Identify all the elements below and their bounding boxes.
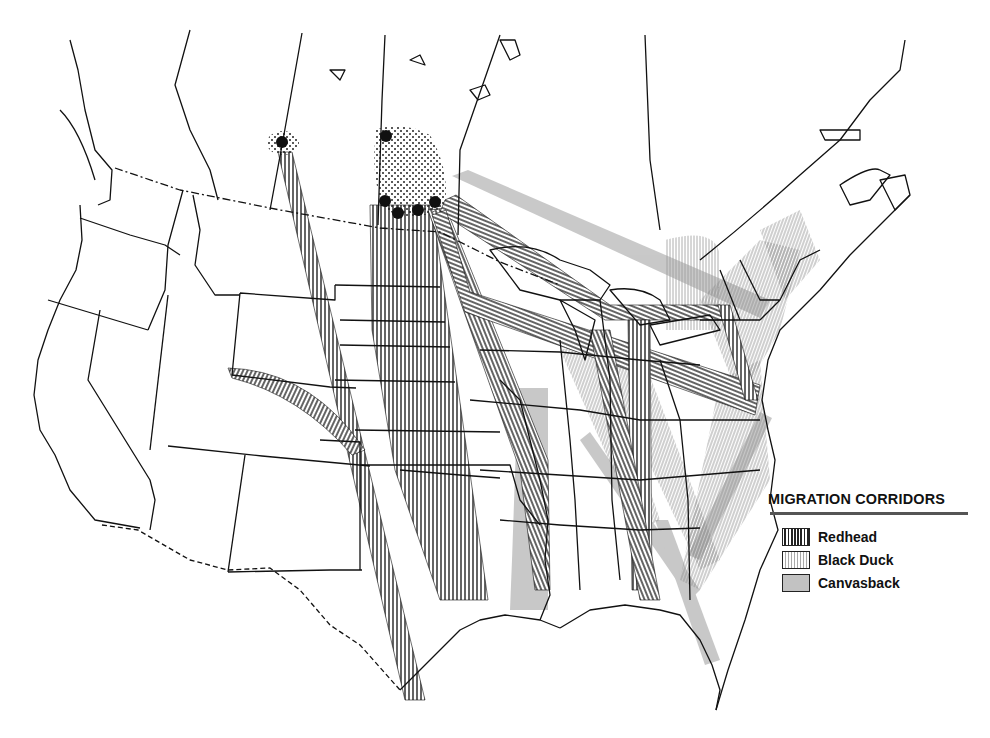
legend-label: Canvasback bbox=[818, 575, 900, 591]
redhead-swatch-icon bbox=[782, 528, 810, 546]
legend-item-canvasback: Canvasback bbox=[782, 571, 973, 594]
legend-divider bbox=[770, 512, 968, 515]
legend-title: MIGRATION CORRIDORS bbox=[768, 490, 959, 508]
breeding-site-manitoba-s1 bbox=[392, 207, 404, 219]
canvasback-swatch-icon bbox=[782, 574, 810, 592]
breeding-site-manitoba-sw bbox=[379, 195, 391, 207]
breeding-site-manitoba-se bbox=[429, 196, 441, 208]
legend-item-redhead: Redhead bbox=[782, 525, 973, 548]
breeding-site-alberta bbox=[276, 136, 288, 148]
black-duck-swatch-icon bbox=[782, 551, 810, 569]
breeding-site-manitoba-north bbox=[380, 130, 392, 142]
legend-items: Redhead Black Duck Canvasback bbox=[782, 525, 973, 594]
migration-map bbox=[0, 0, 990, 738]
boundaries bbox=[34, 30, 910, 710]
legend-label: Redhead bbox=[818, 529, 877, 545]
legend-label: Black Duck bbox=[818, 552, 893, 568]
legend-item-black-duck: Black Duck bbox=[782, 548, 973, 571]
legend: MIGRATION CORRIDORS Redhead Black Duck C… bbox=[768, 490, 973, 594]
breeding-site-manitoba-s2 bbox=[412, 204, 424, 216]
